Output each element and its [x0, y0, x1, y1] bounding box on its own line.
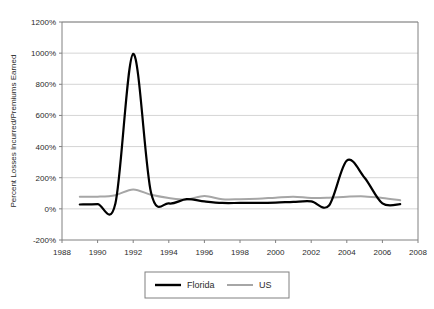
- x-tick-label: 1994: [160, 248, 178, 257]
- x-tick-label: 2006: [374, 248, 392, 257]
- x-tick-label: 2002: [302, 248, 320, 257]
- x-tick-label: 1996: [196, 248, 214, 257]
- line-chart: 1200%1000%800%600%400%200%0%-200%1988199…: [0, 0, 434, 309]
- x-tick-label: 1998: [231, 248, 249, 257]
- x-tick-label: 1988: [53, 248, 71, 257]
- y-tick-label: 1000%: [31, 49, 56, 58]
- y-tick-label: 1200%: [31, 18, 56, 27]
- chart-legend: FloridaUS: [145, 272, 289, 298]
- legend-label-florida: Florida: [187, 280, 215, 290]
- x-tick-label: 1990: [89, 248, 107, 257]
- y-tick-label: 600%: [36, 111, 56, 120]
- x-tick-label: 2000: [267, 248, 285, 257]
- y-tick-label: 200%: [36, 174, 56, 183]
- y-tick-label: 0%: [44, 205, 56, 214]
- y-tick-label: -200%: [33, 236, 56, 245]
- legend-label-us: US: [259, 280, 272, 290]
- y-tick-label: 800%: [36, 80, 56, 89]
- chart-container: 1200%1000%800%600%400%200%0%-200%1988199…: [0, 0, 434, 309]
- x-tick-label: 2004: [338, 248, 356, 257]
- y-axis-title: Percent Losses Incurred/Premiums Earned: [9, 55, 18, 208]
- x-tick-label: 2008: [409, 248, 427, 257]
- x-axis: 1988199019921994199619982000200220042006…: [53, 240, 427, 257]
- y-tick-label: 400%: [36, 143, 56, 152]
- y-axis: 1200%1000%800%600%400%200%0%-200%: [31, 18, 62, 245]
- x-tick-label: 1992: [124, 248, 142, 257]
